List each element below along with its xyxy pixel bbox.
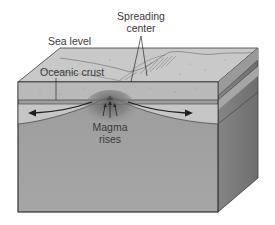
magma-rises-label: Magma rises bbox=[88, 121, 132, 145]
sea-level-label: Sea level bbox=[48, 35, 91, 47]
magma-label-line2: rises bbox=[88, 133, 132, 145]
spreading-center-label-line2: center bbox=[114, 22, 168, 34]
spreading-center-label-line1: Spreading bbox=[114, 10, 168, 22]
magma-label-line1: Magma bbox=[88, 121, 132, 133]
oceanic-crust-label: Oceanic crust bbox=[40, 66, 104, 78]
spreading-center-label: Spreading center bbox=[114, 10, 168, 34]
